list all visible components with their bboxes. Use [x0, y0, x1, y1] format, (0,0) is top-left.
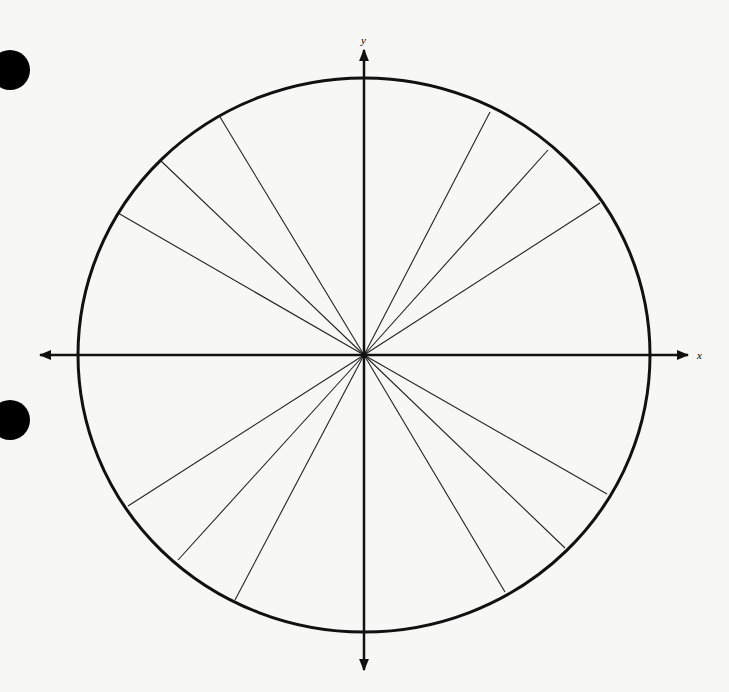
spoke-300-deg [364, 355, 505, 592]
spoke-150-deg [118, 213, 364, 355]
spoke-210-deg [128, 355, 364, 506]
x-axis-label: x [696, 349, 702, 361]
unit-circle-diagram: x y [0, 0, 729, 692]
spoke-240-deg [235, 355, 364, 600]
spoke-135-deg [160, 160, 364, 355]
spoke-315-deg [364, 355, 565, 548]
origin-dot [361, 352, 367, 358]
hole-punches [0, 50, 30, 440]
spoke-30-deg [364, 203, 600, 355]
spoke-120-deg [220, 117, 364, 355]
spoke-225-deg [178, 355, 364, 560]
y-axis-label: y [360, 34, 366, 46]
spoke-330-deg [364, 355, 607, 494]
hole-punch-2 [0, 400, 30, 440]
spoke-60-deg [364, 112, 490, 355]
hole-punch-1 [0, 50, 30, 90]
spoke-45-deg [364, 150, 548, 355]
